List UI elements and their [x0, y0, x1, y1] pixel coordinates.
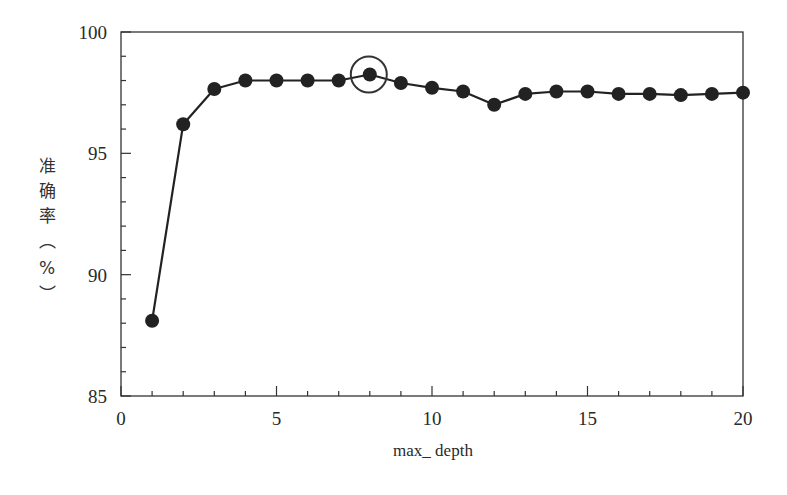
data-point-marker [332, 74, 346, 88]
y-tick-label: 90 [88, 265, 107, 286]
x-axis-title: max_ depth [393, 441, 473, 460]
data-point-marker [487, 98, 501, 112]
data-point-marker [394, 76, 408, 90]
y-axis-title-char: 率 [39, 206, 56, 226]
x-tick-label: 5 [272, 408, 282, 429]
data-point-marker [145, 314, 159, 328]
data-point-marker [581, 84, 595, 98]
data-point-marker [612, 87, 626, 101]
y-axis-title-char: % [39, 258, 55, 278]
data-point-marker [270, 74, 284, 88]
y-tick-label: 85 [88, 386, 107, 407]
x-tick-label: 10 [423, 408, 442, 429]
accuracy-vs-max-depth-chart: 05101520 859095100 max_ depth 准确率︵%︶ [0, 0, 787, 495]
x-tick-labels: 05101520 [116, 408, 752, 429]
data-point-marker [549, 84, 563, 98]
series-line [152, 75, 743, 321]
y-tick-labels: 859095100 [79, 22, 108, 407]
data-point-marker [674, 88, 688, 102]
x-tick-label: 0 [116, 408, 126, 429]
x-tick-label: 15 [578, 408, 597, 429]
data-point-marker [705, 87, 719, 101]
data-point-marker [518, 87, 532, 101]
y-axis-title-char: ︵ [39, 231, 56, 251]
data-point-marker [207, 82, 221, 96]
x-tick-label: 20 [734, 408, 753, 429]
data-point-marker [425, 81, 439, 95]
data-point-marker [456, 84, 470, 98]
data-point-marker [176, 117, 190, 131]
y-tick-label: 95 [88, 143, 107, 164]
data-point-marker [736, 86, 750, 100]
y-axis-title-char: 确 [39, 181, 56, 201]
data-point-marker [643, 87, 657, 101]
data-point-marker [363, 67, 377, 81]
accuracy-series [145, 67, 750, 327]
data-point-marker [238, 74, 252, 88]
y-tick-label: 100 [79, 22, 108, 43]
y-axis-title: 准确率︵%︶ [39, 156, 56, 304]
y-axis-title-char: 准 [39, 156, 56, 176]
data-point-marker [301, 74, 315, 88]
y-axis-title-char: ︶ [39, 284, 56, 304]
